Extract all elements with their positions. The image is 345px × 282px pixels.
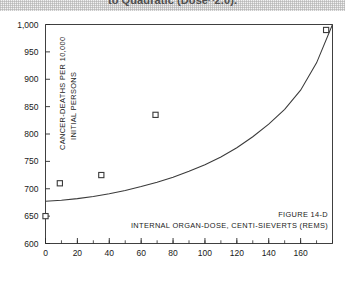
y-tick-label: 800 [24, 129, 38, 139]
y-tick-label: 700 [24, 184, 38, 194]
chart-svg: 6006507007508008509009501,000 0204060801… [0, 0, 345, 282]
x-tick-label: 80 [168, 248, 178, 258]
x-axis-tick-labels: 020406080100120140160 [43, 248, 308, 258]
data-point-marker [57, 181, 62, 186]
x-tick-label: 100 [198, 248, 212, 258]
y-tick-label: 900 [24, 74, 38, 84]
x-tick-label: 40 [105, 248, 115, 258]
figure-number-label: FIGURE 14-D [278, 210, 328, 219]
data-point-markers [43, 27, 329, 218]
x-tick-label: 0 [43, 248, 48, 258]
data-point-marker [153, 112, 158, 117]
data-point-marker [99, 172, 104, 177]
y-tick-label: 750 [24, 156, 38, 166]
x-tick-label: 60 [136, 248, 146, 258]
y-tick-label: 1,000 [17, 20, 39, 30]
figure-container: to Quadratic (Dose^2.0). 600650700750800… [0, 0, 345, 282]
y-axis-title-line1: CANCER-DEATHS PER 10,000 [58, 37, 67, 150]
x-axis-title: INTERNAL ORGAN-DOSE, CENTI-SIEVERTS (REM… [131, 221, 328, 230]
x-tick-label: 120 [230, 248, 244, 258]
x-tick-label: 140 [262, 248, 276, 258]
y-tick-label: 650 [24, 211, 38, 221]
y-tick-label: 850 [24, 102, 38, 112]
y-axis-title-line2: INITIAL PERSONS [69, 72, 78, 140]
data-point-marker [43, 214, 48, 219]
x-tick-label: 160 [294, 248, 308, 258]
y-tick-label: 950 [24, 47, 38, 57]
y-tick-label: 600 [24, 239, 38, 249]
chart-plot-area: 6006507007508008509009501,000 0204060801… [0, 0, 345, 282]
quadratic-fit-curve [46, 25, 333, 202]
y-axis-tick-labels: 6006507007508008509009501,000 [17, 20, 39, 249]
x-tick-label: 20 [73, 248, 83, 258]
y-axis-title: CANCER-DEATHS PER 10,000 INITIAL PERSONS [58, 37, 78, 150]
data-point-marker [324, 27, 329, 32]
